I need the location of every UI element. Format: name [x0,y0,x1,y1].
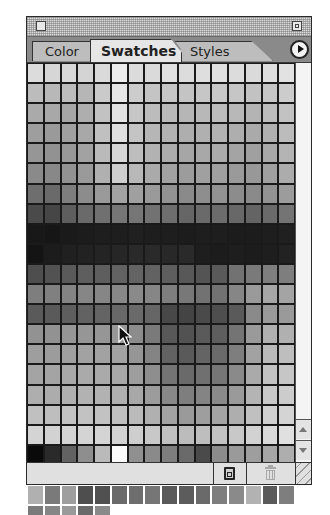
swatch[interactable] [263,64,278,82]
swatch[interactable] [28,426,43,444]
swatch[interactable] [129,124,144,142]
swatch[interactable] [28,124,43,142]
swatch[interactable] [112,84,127,102]
swatch[interactable] [95,506,110,515]
swatch[interactable] [279,104,294,122]
swatch[interactable] [162,164,177,182]
swatch[interactable] [95,84,110,102]
swatch[interactable] [196,345,211,363]
swatch[interactable] [145,84,160,102]
swatch[interactable] [196,486,211,504]
swatch[interactable] [179,205,194,223]
swatch[interactable] [196,265,211,283]
swatch[interactable] [246,64,261,82]
swatch[interactable] [212,84,227,102]
swatch[interactable] [45,124,60,142]
swatch[interactable] [45,104,60,122]
swatch[interactable] [112,305,127,323]
swatch[interactable] [229,426,244,444]
swatch[interactable] [279,265,294,283]
swatch[interactable] [196,144,211,162]
swatch[interactable] [95,245,110,263]
swatch[interactable] [263,124,278,142]
swatch[interactable] [95,345,110,363]
new-swatch-button[interactable] [213,463,246,484]
swatch[interactable] [78,365,93,383]
swatch[interactable] [145,426,160,444]
swatch[interactable] [212,144,227,162]
swatch[interactable] [179,305,194,323]
swatch[interactable] [179,104,194,122]
swatch[interactable] [78,265,93,283]
swatch[interactable] [246,84,261,102]
swatch[interactable] [212,185,227,203]
swatch[interactable] [95,285,110,303]
swatch[interactable] [196,205,211,223]
swatch[interactable] [229,285,244,303]
swatch[interactable] [212,325,227,343]
swatch[interactable] [28,225,43,243]
swatch[interactable] [162,185,177,203]
swatch[interactable] [145,185,160,203]
swatch[interactable] [78,426,93,444]
swatch[interactable] [162,64,177,82]
swatch[interactable] [129,164,144,182]
swatch[interactable] [28,365,43,383]
swatch[interactable] [229,386,244,404]
swatch[interactable] [145,265,160,283]
swatch[interactable] [196,104,211,122]
swatch[interactable] [145,325,160,343]
swatch[interactable] [95,325,110,343]
swatch[interactable] [246,305,261,323]
swatch[interactable] [246,164,261,182]
swatch[interactable] [28,205,43,223]
swatch[interactable] [179,164,194,182]
swatch[interactable] [145,285,160,303]
swatch[interactable] [62,345,77,363]
palette-menu-button[interactable] [290,40,309,59]
swatch[interactable] [162,265,177,283]
swatch[interactable] [95,486,110,504]
swatch[interactable] [229,205,244,223]
swatch[interactable] [78,164,93,182]
swatch[interactable] [112,245,127,263]
delete-swatch-button[interactable] [246,463,295,484]
swatch[interactable] [196,285,211,303]
swatch[interactable] [145,365,160,383]
swatch[interactable] [145,164,160,182]
swatch[interactable] [162,245,177,263]
swatch[interactable] [263,426,278,444]
swatch[interactable] [246,285,261,303]
swatch[interactable] [112,265,127,283]
swatch[interactable] [196,325,211,343]
swatch[interactable] [179,84,194,102]
swatch[interactable] [279,285,294,303]
swatch[interactable] [112,144,127,162]
swatch[interactable] [212,104,227,122]
swatch[interactable] [196,406,211,424]
swatch[interactable] [279,305,294,323]
swatch[interactable] [212,285,227,303]
swatch[interactable] [62,426,77,444]
swatch[interactable] [78,386,93,404]
swatch[interactable] [28,325,43,343]
swatch[interactable] [246,225,261,243]
swatch[interactable] [196,185,211,203]
swatch[interactable] [129,64,144,82]
swatch[interactable] [179,386,194,404]
swatch[interactable] [229,265,244,283]
swatch[interactable] [263,164,278,182]
swatch[interactable] [78,124,93,142]
swatch[interactable] [246,486,261,504]
swatch[interactable] [45,386,60,404]
swatch[interactable] [229,104,244,122]
swatch[interactable] [229,365,244,383]
swatch[interactable] [246,406,261,424]
swatch[interactable] [196,426,211,444]
swatch[interactable] [212,486,227,504]
swatch[interactable] [279,225,294,243]
tab-swatches[interactable]: Swatches [90,39,182,62]
swatch[interactable] [162,325,177,343]
palette-title-bar[interactable] [27,17,311,37]
swatch[interactable] [162,305,177,323]
